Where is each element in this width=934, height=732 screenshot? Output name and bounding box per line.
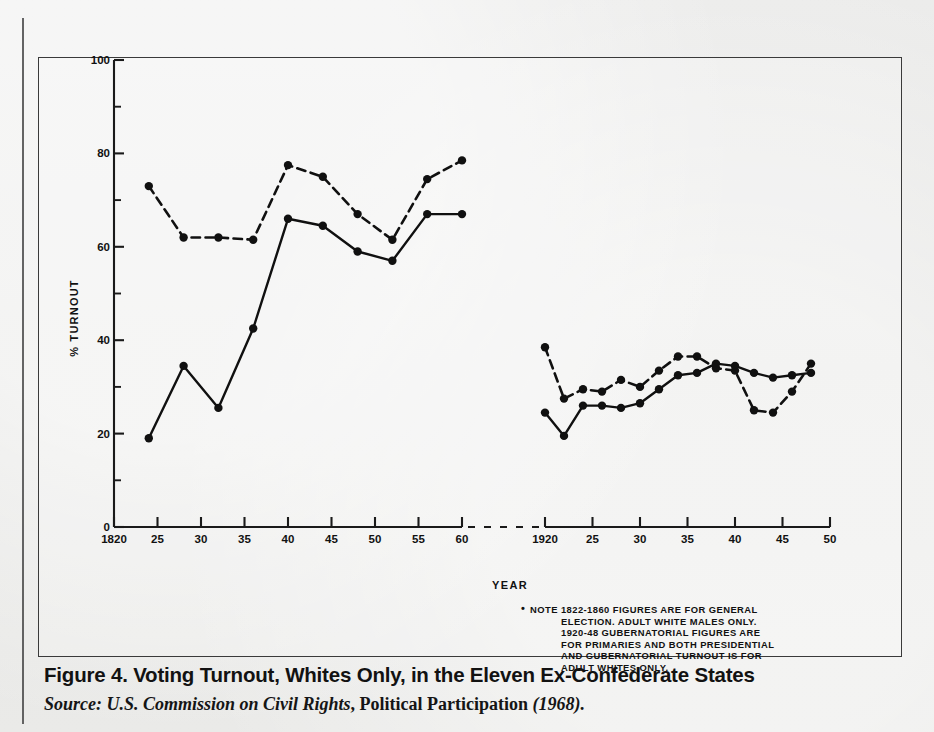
figure-block: % TURNOUT YEAR 020406080100 182025303540… (22, 18, 912, 724)
data-point (560, 394, 568, 402)
data-point (750, 406, 758, 414)
data-point (788, 387, 796, 395)
data-point (388, 236, 396, 244)
data-point (693, 369, 701, 377)
x-tick-label: 30 (634, 533, 647, 545)
data-point (458, 156, 466, 164)
footnote-line: AND GUBERNATORIAL TURNOUT IS FOR (530, 650, 860, 662)
data-point (319, 173, 327, 181)
data-point (423, 210, 431, 218)
data-point (249, 324, 257, 332)
data-point (145, 182, 153, 190)
data-point (423, 175, 431, 183)
series-line-presidential-turnout-dashed (149, 160, 462, 239)
x-tick-label: 60 (456, 533, 469, 545)
data-point (617, 376, 625, 384)
x-tick-label: 25 (151, 533, 164, 545)
x-ticks-group (114, 517, 830, 527)
data-point (693, 352, 701, 360)
x-tick-label: 40 (282, 533, 295, 545)
data-point (214, 404, 222, 412)
data-point (560, 432, 568, 440)
data-point (769, 408, 777, 416)
x-tick-label: 35 (681, 533, 694, 545)
data-point (636, 399, 644, 407)
data-point (598, 387, 606, 395)
source-year: (1968). (533, 694, 586, 714)
data-point (179, 362, 187, 370)
data-point (712, 359, 720, 367)
figure-source: Source: U.S. Commission on Civil Rights,… (44, 694, 904, 715)
series-line-gubernatorial-turnout-solid (149, 214, 462, 438)
y-tick-label: 80 (97, 147, 110, 159)
x-tick-label: 25 (586, 533, 599, 545)
x-tick-label: 1820 (101, 533, 127, 545)
source-title: Political Participation (360, 694, 528, 714)
x-axis-label: YEAR (492, 579, 528, 591)
data-point (458, 210, 466, 218)
y-tick-label: 40 (97, 334, 110, 346)
data-point (598, 401, 606, 409)
y-tick-label: 0 (104, 521, 110, 533)
data-point (353, 247, 361, 255)
data-point (179, 233, 187, 241)
x-tick-label: 45 (776, 533, 789, 545)
source-agency: U.S. Commission on Civil Rights (107, 694, 351, 714)
data-point (807, 359, 815, 367)
source-prefix: Source: (44, 694, 102, 714)
data-point (674, 371, 682, 379)
footnote-line: 1920-48 GUBERNATORIAL FIGURES ARE (530, 627, 860, 639)
data-point (319, 222, 327, 230)
data-point (284, 161, 292, 169)
data-point (388, 257, 396, 265)
y-tick-label: 20 (97, 428, 110, 440)
data-point (788, 371, 796, 379)
source-comma: , (351, 694, 356, 714)
x-tick-label: 1920 (532, 533, 558, 545)
data-point (655, 366, 663, 374)
x-tick-label: 55 (412, 533, 425, 545)
data-point (214, 233, 222, 241)
y-tick-label: 60 (97, 241, 110, 253)
data-point (353, 210, 361, 218)
x-tick-label: 40 (729, 533, 742, 545)
x-tick-label: 45 (325, 533, 338, 545)
data-point (579, 401, 587, 409)
data-point (674, 352, 682, 360)
x-tick-label: 50 (824, 533, 837, 545)
x-tick-label: 35 (238, 533, 251, 545)
footnote-line: ELECTION. ADULT WHITE MALES ONLY. (530, 616, 860, 628)
data-point (655, 385, 663, 393)
footnote-line: FOR PRIMARIES AND BOTH PRESIDENTIAL (530, 639, 860, 651)
data-point (769, 373, 777, 381)
data-point (145, 434, 153, 442)
footnote-marker-icon: • (521, 603, 525, 615)
y-axis-label: % TURNOUT (68, 279, 80, 356)
data-point (284, 215, 292, 223)
data-series-group (145, 156, 816, 442)
x-tick-label: 50 (369, 533, 382, 545)
data-point (617, 404, 625, 412)
figure-caption: Figure 4. Voting Turnout, Whites Only, i… (44, 663, 904, 687)
data-point (731, 362, 739, 370)
footnote-line: NOTE 1822-1860 FIGURES ARE FOR GENERAL (530, 604, 860, 616)
data-point (579, 385, 587, 393)
y-ticks-group (114, 60, 124, 527)
data-point (541, 408, 549, 416)
data-point (807, 369, 815, 377)
x-tick-label: 30 (195, 533, 208, 545)
data-point (541, 343, 549, 351)
data-point (249, 236, 257, 244)
data-point (636, 383, 644, 391)
axes-group (114, 60, 830, 527)
data-point (750, 369, 758, 377)
y-tick-label: 100 (91, 54, 110, 66)
